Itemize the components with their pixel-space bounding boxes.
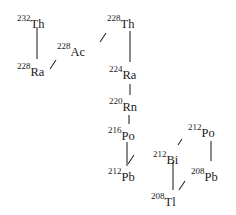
nuclide-tl208: 208Tl (151, 193, 176, 209)
nuclide-ra228: 228Ra (17, 63, 44, 79)
mass-number: 220 (109, 96, 123, 106)
element-symbol: Tl (165, 195, 176, 209)
element-symbol: Th (121, 17, 135, 31)
mass-number: 216 (108, 125, 122, 135)
beta-tl208-pb208 (179, 181, 185, 190)
nuclide-bi212: 212Bi (153, 151, 178, 167)
mass-number: 224 (109, 64, 123, 74)
element-symbol: Po (122, 129, 135, 143)
nuclide-po216: 216Po (108, 127, 135, 143)
mass-number: 228 (107, 13, 121, 23)
beta-ac228-th228 (100, 33, 106, 42)
element-symbol: Pb (122, 170, 135, 184)
element-symbol: Ra (123, 68, 137, 82)
mass-number: 232 (17, 13, 31, 23)
decay-chain-diagram: 232Th 228Ra 228Ac 228Th 224Ra 220Rn 216P… (0, 0, 236, 215)
beta-pb212-bi212 (128, 155, 134, 164)
mass-number: 208 (151, 191, 165, 201)
element-symbol: Ac (71, 45, 86, 59)
mass-number: 228 (17, 61, 31, 71)
nuclide-rn220: 220Rn (109, 98, 137, 114)
element-symbol: Bi (167, 153, 179, 167)
nuclide-ra224: 224Ra (109, 66, 136, 82)
nuclide-ac228: 228Ac (57, 43, 85, 59)
mass-number: 208 (191, 166, 205, 176)
nuclide-po212: 212Po (188, 124, 215, 140)
mass-number: 212 (153, 149, 167, 159)
nuclide-th232: 232Th (17, 15, 44, 31)
nuclide-pb212: 212Pb (108, 168, 135, 184)
beta-bi212-po212 (178, 139, 182, 145)
nuclide-th228: 228Th (107, 15, 134, 31)
mass-number: 212 (188, 122, 202, 132)
element-symbol: Th (31, 17, 45, 31)
nuclide-pb208: 208Pb (191, 168, 218, 184)
beta-ra228-ac228 (50, 60, 56, 69)
element-symbol: Po (202, 126, 215, 140)
element-symbol: Rn (123, 100, 138, 114)
mass-number: 212 (108, 166, 122, 176)
element-symbol: Pb (205, 170, 218, 184)
element-symbol: Ra (31, 65, 45, 79)
mass-number: 228 (57, 41, 71, 51)
